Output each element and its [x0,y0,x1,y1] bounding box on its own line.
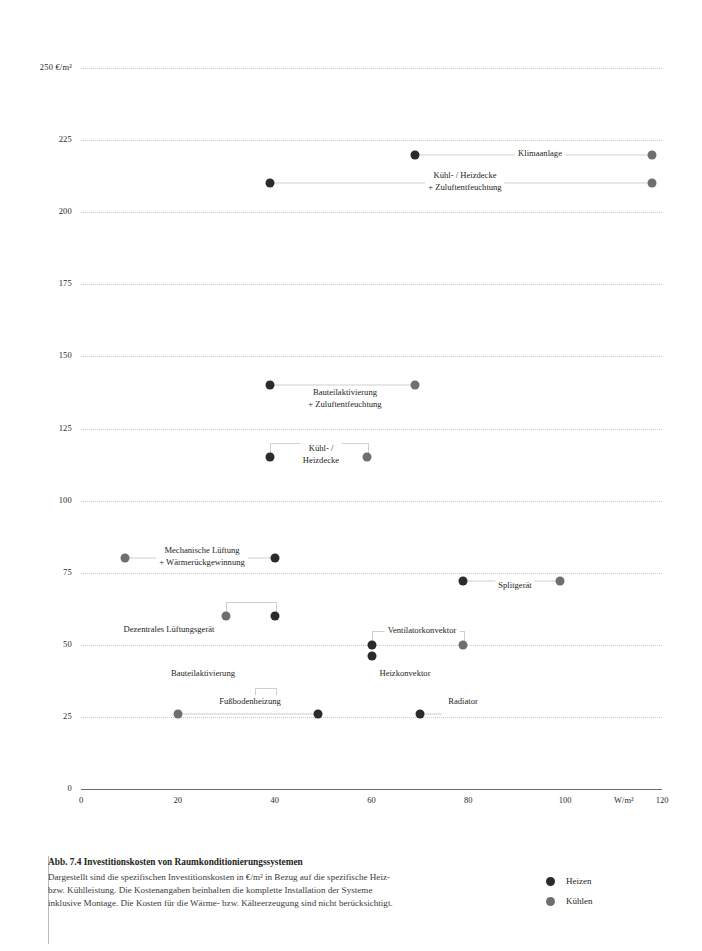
data-point-heizen[interactable] [459,577,468,586]
data-point-heizen[interactable] [270,611,279,620]
data-point-heizen[interactable] [411,150,420,159]
scatter-chart: 0255075100125150175200225250 €/m² 020406… [0,0,702,830]
data-point-heizen[interactable] [270,554,279,563]
data-point-kuehlen[interactable] [362,453,371,462]
data-point-label: Radiator [445,695,481,707]
gridline [81,429,662,431]
data-point-label: Bauteilaktivierung+ Zuluftentfeuchtung [305,386,384,410]
legend-label: Heizen [566,876,591,886]
data-point-label-line: + Zuluftentfeuchtung [428,181,501,193]
gridline [81,573,662,575]
x-axis-tick-label: 60 [367,795,376,805]
data-point-label-line: + Wärmerückgewinnung [159,556,245,568]
data-point-heizen[interactable] [314,710,323,719]
data-point-label-line: Klimaanlage [518,147,562,159]
data-point-heizen[interactable] [367,640,376,649]
point-bracket [226,602,276,617]
data-point-kuehlen[interactable] [459,640,468,649]
data-point-label: Klimaanlage [515,147,565,159]
data-point-label-line: Radiator [448,695,478,707]
data-point-kuehlen[interactable] [411,381,420,390]
data-point-label: Bauteilaktivierung [168,667,238,679]
point-connector-line [178,714,318,715]
gridline [81,356,662,358]
x-axis-tick-label: 120 [656,795,669,805]
gridline [81,68,662,70]
x-axis-tick-label: 100 [559,795,572,805]
data-point-label-line: Bauteilaktivierung [308,386,381,398]
data-point-label-line: Heizdecke [303,454,339,466]
data-point-label-line: Fußbodenheizung [219,695,281,707]
x-axis-tick-label: 20 [174,795,183,805]
data-point-heizen[interactable] [415,710,424,719]
data-point-label-line: Bauteilaktivierung [171,667,235,679]
data-point-label: Heizkonvektor [376,667,433,679]
data-point-label-line: Splitgerät [498,579,531,591]
data-point-kuehlen[interactable] [648,150,657,159]
data-point-kuehlen[interactable] [648,179,657,188]
gridline [81,717,662,719]
data-point-label-line: Kühl- / Heizdecke [428,169,501,181]
x-axis-tick-label: 40 [270,795,279,805]
data-point-kuehlen[interactable] [173,710,182,719]
data-point-label: Fußbodenheizung [216,695,284,707]
legend-item[interactable]: Kühlen [546,896,593,906]
data-point-label-line: + Zuluftentfeuchtung [308,398,381,410]
data-point-label: Dezentrales Lüftungsgerät [121,623,218,635]
data-point-heizen[interactable] [367,652,376,661]
chart-legend: HeizenKühlen [546,876,593,916]
data-point-label-line: Dezentrales Lüftungsgerät [124,623,215,635]
data-point-label: Ventilatorkonvektor [385,624,460,636]
legend-dot-icon [546,877,555,886]
data-point-label-line: Ventilatorkonvektor [388,624,457,636]
caption-body: Dargestellt sind die spezifischen Invest… [48,871,398,911]
gridline [81,140,662,142]
gridline [81,501,662,503]
data-point-label: Splitgerät [495,579,534,591]
data-point-kuehlen[interactable] [556,577,565,586]
data-point-label-line: Kühl- / [303,442,339,454]
legend-item[interactable]: Heizen [546,876,593,886]
data-point-label: Kühl- /Heizdecke [300,442,342,466]
figure-caption: Abb. 7.4 Investitionskosten von Raumkond… [48,856,398,910]
x-axis-tick-label: 80 [464,795,473,805]
data-point-heizen[interactable] [265,453,274,462]
data-point-label: Kühl- / Heizdecke+ Zuluftentfeuchtung [425,169,504,193]
legend-label: Kühlen [566,896,593,906]
data-point-label-line: Heizkonvektor [379,667,430,679]
legend-dot-icon [546,897,555,906]
data-point-kuehlen[interactable] [222,611,231,620]
gridline [81,212,662,214]
x-axis-tick-label: 0 [79,795,83,805]
caption-title: Abb. 7.4 Investitionskosten von Raumkond… [48,856,398,870]
x-axis-unit-label: W/m² [614,795,634,805]
gridline [81,284,662,286]
data-point-label: Mechanische Lüftung+ Wärmerückgewinnung [156,544,248,568]
data-point-heizen[interactable] [265,179,274,188]
data-point-kuehlen[interactable] [120,554,129,563]
data-point-heizen[interactable] [265,381,274,390]
data-point-label-line: Mechanische Lüftung [159,544,245,556]
x-axis-line [81,789,662,790]
